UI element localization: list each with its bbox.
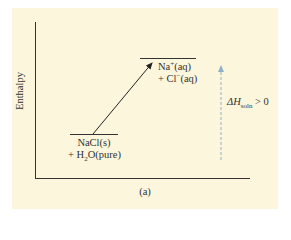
caption: (a) bbox=[130, 186, 160, 198]
lower-level-label: NaCl(s) + H2O(pure) bbox=[68, 137, 120, 161]
upper-level-label: Na+(aq) + Cl−(aq) bbox=[158, 61, 197, 85]
transition-arrow bbox=[93, 63, 152, 134]
y-axis-label: Enthalpy bbox=[14, 72, 25, 110]
delta-h-label: ΔHsoln > 0 bbox=[227, 96, 269, 108]
